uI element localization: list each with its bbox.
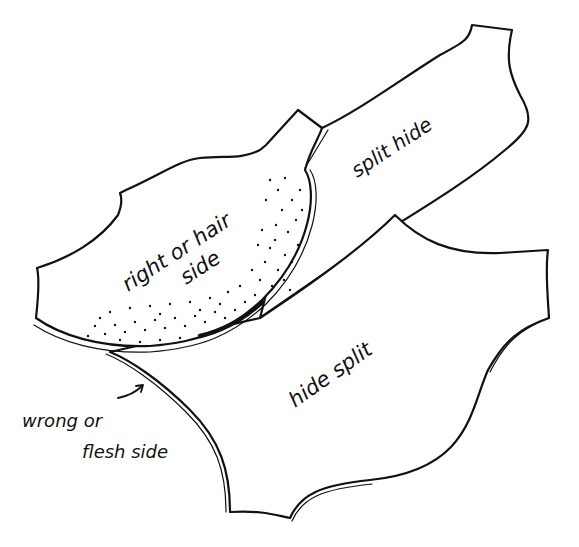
label-wrong-side-line2: flesh side [82,441,168,462]
diagram-svg: right or hair side split hide hide split… [0,0,579,547]
hide-split-diagram: right or hair side split hide hide split… [0,0,579,547]
label-wrong-side-line1: wrong or [22,410,104,431]
arrow-icon [118,386,142,398]
